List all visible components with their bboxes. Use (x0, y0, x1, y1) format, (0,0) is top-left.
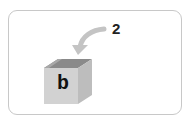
step-number-label: 2 (112, 20, 120, 37)
curved-arrow-icon (72, 29, 104, 55)
box-letter-label: b (48, 72, 78, 95)
diagram-scene (0, 0, 189, 121)
